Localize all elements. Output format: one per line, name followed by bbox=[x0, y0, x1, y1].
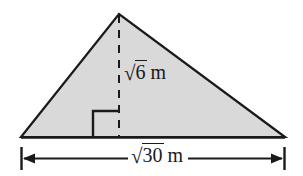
geometry-figure: √6m √30m bbox=[0, 0, 303, 176]
base-unit: m bbox=[168, 144, 184, 166]
radical-sign-icon: √ bbox=[124, 61, 136, 85]
radical-sign-icon: √ bbox=[131, 144, 143, 168]
altitude-unit: m bbox=[151, 61, 167, 83]
altitude-radicand: 6 bbox=[135, 60, 147, 83]
base-radicand: 30 bbox=[142, 143, 164, 166]
altitude-length-label: √6m bbox=[124, 62, 166, 83]
base-length-label: √30m bbox=[128, 145, 186, 166]
